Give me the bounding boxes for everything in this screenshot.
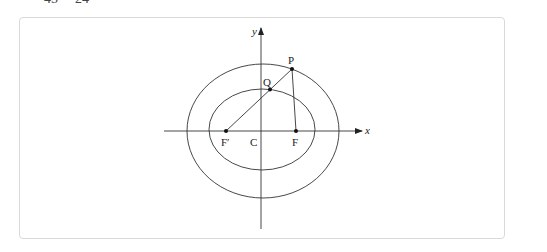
y-axis-label: y [251, 25, 257, 37]
point-p [290, 67, 294, 71]
label-f-prime: F′ [221, 136, 230, 148]
ellipse-diagram: x y P Q F′ C F [0, 0, 547, 252]
label-p: P [288, 54, 294, 66]
label-c: C [250, 136, 257, 148]
point-q [268, 88, 272, 92]
segment-p-f [292, 69, 296, 131]
label-q: Q [263, 76, 271, 88]
x-axis-label: x [364, 124, 370, 136]
point-f-prime [224, 129, 228, 133]
segment-fprime-p [226, 69, 292, 131]
point-f [294, 129, 298, 133]
label-f: F [292, 136, 298, 148]
